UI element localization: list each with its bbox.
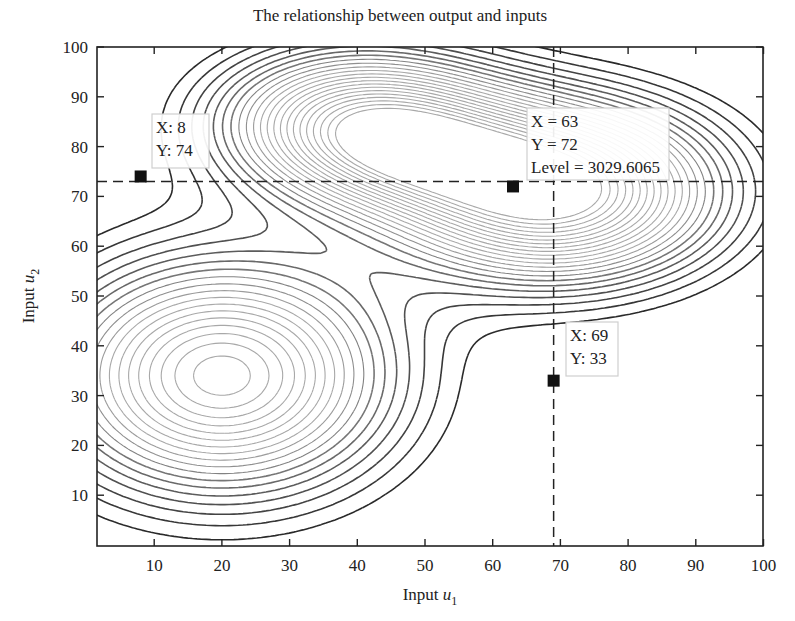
x-tick-label: 20 (213, 556, 230, 575)
x-tick-label: 30 (281, 556, 298, 575)
x-tick-label: 40 (349, 556, 366, 575)
data-tip-text: X: 69 (570, 326, 608, 345)
data-tip-text: Y: 74 (156, 141, 193, 160)
x-tick-label: 10 (146, 556, 163, 575)
data-tip-text: Y: 33 (570, 349, 607, 368)
x-tick-label: 70 (552, 556, 569, 575)
data-tip-marker[interactable] (135, 170, 147, 182)
y-axis-label: Input u2 (19, 269, 42, 324)
contour-lines (87, 37, 778, 540)
data-tip[interactable]: X: 8Y: 74 (135, 114, 209, 182)
y-tick-label: 50 (71, 287, 88, 306)
data-tip-text: Level = 3029.6065 (531, 158, 660, 177)
y-tick-label: 60 (71, 237, 88, 256)
data-tip-text: X: 8 (156, 118, 186, 137)
x-axis-label: Input u1 (403, 585, 458, 608)
x-tick-label: 80 (620, 556, 637, 575)
y-tick-label: 70 (71, 187, 88, 206)
y-tick-label: 20 (71, 436, 88, 455)
y-tick-label: 90 (71, 88, 88, 107)
data-tip[interactable]: X = 63Y = 72Level = 3029.6065 (507, 108, 669, 192)
y-tick-label: 80 (71, 138, 88, 157)
x-tick-label: 50 (417, 556, 434, 575)
x-tick-label: 60 (484, 556, 501, 575)
data-tip[interactable]: X: 69Y: 33 (548, 322, 618, 387)
y-tick-label: 10 (71, 486, 88, 505)
chart-title: The relationship between output and inpu… (253, 6, 547, 25)
contour-chart: The relationship between output and inpu… (0, 0, 795, 621)
x-tick-label: 90 (687, 556, 704, 575)
x-tick-label: 100 (751, 556, 777, 575)
data-tip-marker[interactable] (507, 180, 519, 192)
data-tip-text: Y = 72 (531, 135, 578, 154)
y-tick-label: 40 (71, 337, 88, 356)
y-tick-label: 30 (71, 387, 88, 406)
data-tip-marker[interactable] (548, 375, 560, 387)
y-tick-label: 100 (63, 38, 89, 57)
data-tip-text: X = 63 (531, 112, 578, 131)
